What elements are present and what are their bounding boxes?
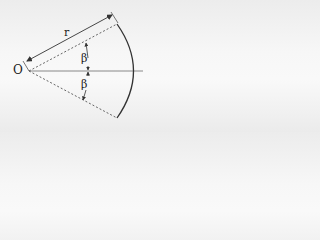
origin-label: O [13, 64, 23, 76]
radius-label: r [64, 27, 69, 38]
radius-dimension-arrow [27, 15, 112, 61]
beta-lower-arrow [83, 90, 86, 100]
radius-tick-outer [111, 12, 118, 23]
radius-tick-origin [23, 61, 29, 71]
upper-sector-edge [29, 24, 117, 71]
lower-angle-label: β [81, 79, 87, 90]
upper-angle-label: β [81, 53, 87, 64]
lower-sector-edge [29, 71, 117, 118]
